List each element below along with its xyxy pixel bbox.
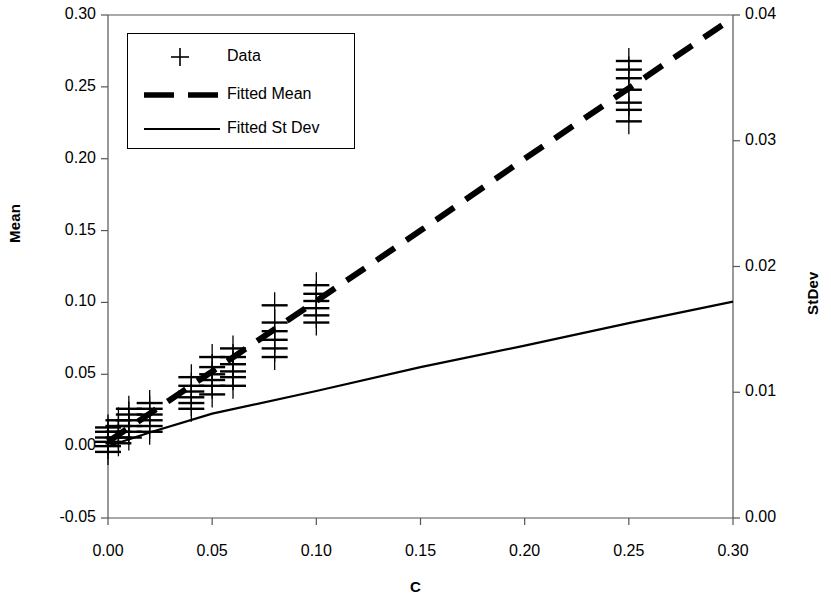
y-axis-left-tick-label: 0.15 [30, 221, 96, 239]
y-axis-left-tick-label: 0.25 [30, 77, 96, 95]
legend-item-label: Data [227, 47, 261, 65]
x-axis-tick-label: 0.30 [688, 542, 778, 560]
x-axis-title: C [0, 578, 831, 595]
y-axis-left-tick-label: -0.05 [30, 508, 96, 526]
legend-item-label: Fitted Mean [227, 85, 311, 103]
y-axis-right-tick-label: 0.04 [745, 5, 815, 23]
x-axis-tick-label: 0.00 [63, 542, 153, 560]
y-axis-left-tick-label: 0.10 [30, 292, 96, 310]
x-axis-tick-label: 0.05 [167, 542, 257, 560]
y-axis-right-tick-label: 0.02 [745, 257, 815, 275]
y-axis-left-tick-label: 0.00 [30, 436, 96, 454]
y-axis-left-tick-label: 0.20 [30, 149, 96, 167]
y-axis-right-title: StDev [804, 271, 821, 315]
y-axis-left-tick-label: 0.05 [30, 364, 96, 382]
x-axis-tick-label: 0.10 [271, 542, 361, 560]
x-axis-tick-label: 0.25 [584, 542, 674, 560]
plot-canvas [0, 0, 831, 607]
y-axis-right-tick-label: 0.01 [745, 382, 815, 400]
x-axis-tick-label: 0.20 [480, 542, 570, 560]
y-axis-right-tick-label: 0.03 [745, 131, 815, 149]
y-axis-left-tick-label: 0.30 [30, 5, 96, 23]
chart-figure: Mean StDev C -0.050.000.050.100.150.200.… [0, 0, 831, 607]
y-axis-left-title: Mean [6, 204, 23, 243]
legend: DataFitted MeanFitted St Dev [127, 33, 355, 149]
legend-item-label: Fitted St Dev [227, 119, 319, 137]
x-axis-tick-label: 0.15 [376, 542, 466, 560]
y-axis-right-tick-label: 0.00 [745, 508, 815, 526]
